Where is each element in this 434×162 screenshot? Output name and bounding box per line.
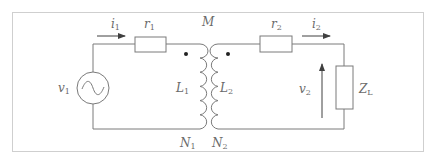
secondary-coil-icon xyxy=(210,44,218,129)
label-L1: L1 xyxy=(175,81,189,96)
secondary-circuit xyxy=(218,44,344,129)
label-N1: N1 xyxy=(179,136,196,151)
primary-coil-icon xyxy=(200,44,208,129)
ac-source-icon xyxy=(77,72,109,104)
label-N2: N2 xyxy=(211,136,228,151)
label-L2: L2 xyxy=(219,81,233,96)
label-v1: v1 xyxy=(58,81,70,96)
polarity-dot-primary xyxy=(184,52,188,56)
label-r1: r1 xyxy=(144,17,155,32)
label-mutual-inductance: M xyxy=(201,15,215,29)
load-impedance-zl xyxy=(336,66,353,109)
resistor-r2 xyxy=(260,36,292,52)
label-i2: i2 xyxy=(312,17,321,32)
transformer-circuit-diagram: M i1 r1 v1 L1 L2 N1 N2 r2 i2 v2 ZL xyxy=(0,0,434,162)
label-r2: r2 xyxy=(271,17,282,32)
resistor-r1 xyxy=(135,37,166,52)
label-i1: i1 xyxy=(111,17,120,32)
label-v2: v2 xyxy=(299,82,311,97)
polarity-dot-secondary xyxy=(226,52,230,56)
label-ZL: ZL xyxy=(358,82,373,97)
